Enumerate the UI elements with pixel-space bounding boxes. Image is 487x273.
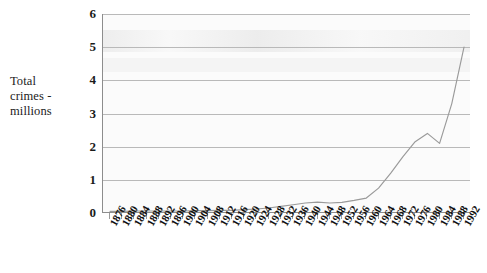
y-axis-tick-label: 6 [70,6,96,22]
y-axis-tick-label: 4 [70,72,96,88]
chart-page: Total crimes - millions 0123456 18761880… [0,0,487,273]
y-axis-title-line-2: crimes - [10,89,80,104]
data-series-line [110,47,464,211]
y-axis-tick-label: 3 [70,106,96,122]
plot-area [102,14,470,213]
y-axis-tick-label: 0 [70,205,96,221]
y-axis-tick-label: 5 [70,39,96,55]
y-axis-tick-label: 1 [70,172,96,188]
y-axis-tick-label: 2 [70,139,96,155]
chart-line-svg [103,14,470,212]
